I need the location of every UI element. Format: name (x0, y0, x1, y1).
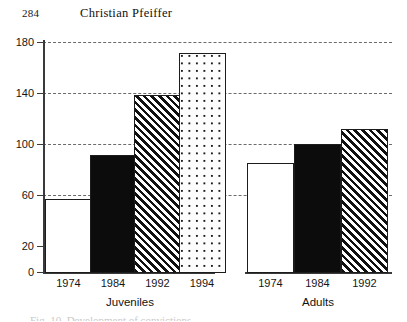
bar-juveniles-1994 (179, 53, 226, 273)
x-tick-label-juveniles-1994: 1994 (173, 278, 232, 289)
bar-adults-1974 (247, 163, 294, 273)
caption-remnant: Fig. 10. Development of convictions (30, 314, 360, 321)
bar-juveniles-1974 (45, 199, 92, 273)
bar-adults-1984 (294, 144, 341, 273)
group-label-adults: Adults (268, 297, 368, 309)
bar-juveniles-1984 (90, 155, 137, 273)
bar-chart: 02060100140180 1974198419921994197419841… (0, 26, 407, 322)
bar-adults-1992 (341, 129, 388, 273)
group-label-juveniles: Juveniles (80, 297, 180, 309)
x-tick-label-adults-1992: 1992 (335, 278, 394, 289)
running-head: 284 Christian Pfeiffer (0, 0, 407, 26)
bar-juveniles-1992 (134, 95, 181, 273)
bar-group (0, 26, 407, 273)
author-name: Christian Pfeiffer (80, 6, 172, 21)
page-number: 284 (22, 7, 39, 19)
